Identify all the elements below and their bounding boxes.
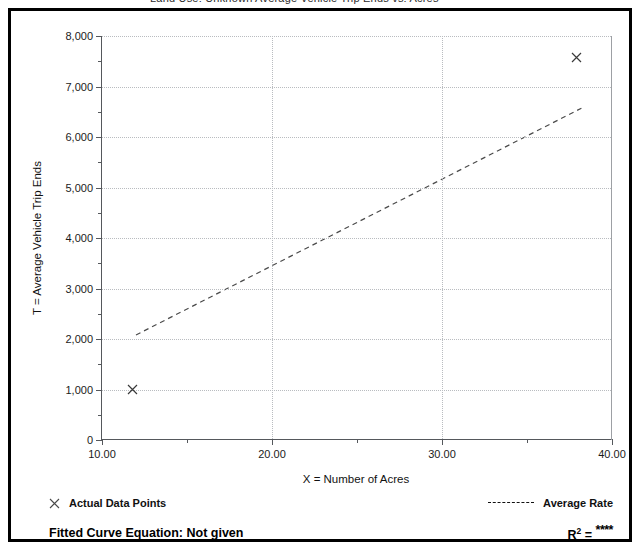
y-axis-tick-label: 8,000 [65,30,93,42]
y-axis-tick [96,390,102,391]
legend-row-equation: Fitted Curve Equation: Not given R2 = **… [11,520,635,546]
gridline-horizontal [102,188,611,190]
y-axis-tick [98,263,102,264]
legend-row-markers: Actual Data Points Average Rate [11,490,635,516]
gridline-horizontal [102,390,611,392]
plot-wrapper: 01,0002,0003,0004,0005,0006,0007,0008,00… [11,11,635,545]
y-axis-tick [98,314,102,315]
r-squared-symbol: R [567,529,576,543]
y-axis-tick [98,162,102,163]
gridline-horizontal [102,238,611,240]
trendline-segment [136,108,581,335]
fitted-curve-equation: Fitted Curve Equation: Not given [49,520,243,546]
plot-frame-right [611,36,612,440]
y-axis-tick-label: 7,000 [65,81,93,93]
y-axis-tick [98,415,102,416]
r-squared-equals: = [585,529,592,543]
x-axis-tick-label: 10.00 [88,448,116,460]
y-axis-tick [96,289,102,290]
y-axis-tick [96,137,102,138]
fitted-curve-equation-label: Fitted Curve Equation: Not given [49,526,243,540]
x-axis-tick-label: 40.00 [598,448,626,460]
plot-area: 01,0002,0003,0004,0005,0006,0007,0008,00… [101,36,611,440]
y-axis-tick [96,36,102,37]
data-point-marker [127,384,138,395]
legend-label-actual-data-points: Actual Data Points [69,497,166,509]
data-point-marker [571,52,582,63]
y-axis-tick-label: 6,000 [65,131,93,143]
gridline-horizontal [102,339,611,341]
r-squared-stars: **** [596,523,613,537]
y-axis-tick [96,87,102,88]
y-axis-tick-label: 3,000 [65,283,93,295]
x-axis-tick [272,439,273,445]
gridline-horizontal [102,289,611,291]
y-axis-tick-label: 2,000 [65,333,93,345]
x-axis-title: X = Number of Acres [101,473,611,485]
x-axis-tick-label: 20.00 [258,448,286,460]
y-axis-tick-label: 0 [87,434,93,446]
gridline-horizontal [102,87,611,89]
y-axis-tick-label: 1,000 [65,384,93,396]
y-axis-tick-label: 4,000 [65,232,93,244]
legend-label-average-rate: Average Rate [543,497,613,509]
x-axis-tick [442,439,443,445]
y-axis-tick [96,339,102,340]
x-axis-tick [612,439,613,445]
r-squared-value: R2 = **** [567,520,613,546]
y-axis-tick [98,61,102,62]
y-axis-tick-label: 5,000 [65,182,93,194]
gridline-horizontal [102,137,611,139]
y-axis-title: T = Average Vehicle Trip Ends [31,161,43,315]
figure-frame: 01,0002,0003,0004,0005,0006,0007,0008,00… [8,8,632,542]
x-axis-tick [357,439,358,443]
x-axis-tick [187,439,188,443]
x-marker-icon [49,498,60,509]
y-axis-tick [98,112,102,113]
r-squared-exponent: 2 [577,526,582,536]
y-axis-tick [96,238,102,239]
legend-item-average-rate: Average Rate [488,490,613,516]
r-squared-expression: R2 = **** [567,523,613,542]
clipped-header-text: Land Use: Unknown Average Vehicle Trip E… [0,0,640,4]
x-axis-tick [527,439,528,443]
y-axis-tick [96,188,102,189]
chart-page: Land Use: Unknown Average Vehicle Trip E… [0,0,640,552]
gridline-horizontal [102,36,611,38]
legend-item-actual-data-points: Actual Data Points [49,490,166,516]
y-axis-tick [98,213,102,214]
y-axis-tick [98,364,102,365]
gridline-vertical [272,36,274,439]
x-axis-tick [102,439,103,445]
dashed-line-icon [488,502,534,504]
gridline-vertical [442,36,444,439]
x-axis-tick-label: 30.00 [428,448,456,460]
